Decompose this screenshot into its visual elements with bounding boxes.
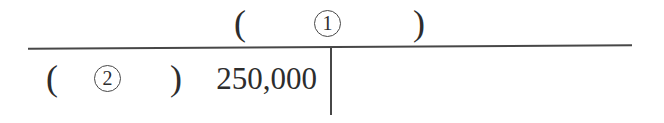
circled-number-1-digit: 1: [323, 13, 333, 33]
t-account-vertical-divider: [330, 47, 332, 115]
title-close-paren: ): [413, 5, 425, 41]
account-title-row: ( 1 ): [0, 2, 664, 44]
circled-number-2: 2: [94, 65, 121, 92]
circled-number-1: 1: [314, 10, 341, 37]
circled-number-2-digit: 2: [103, 68, 113, 88]
debit-amount: 250,000: [182, 63, 330, 94]
debit-close-paren: ): [170, 60, 182, 96]
title-open-paren: (: [234, 5, 246, 41]
debit-open-paren: (: [46, 60, 58, 96]
debit-entry-row: ( 2 ) 250,000: [0, 56, 330, 100]
t-account-page: ( 1 ) ( 2 ) 250,000: [0, 0, 664, 123]
